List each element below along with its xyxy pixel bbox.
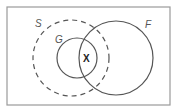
venn-diagram: S G F X bbox=[0, 0, 176, 111]
set-s-label: S bbox=[35, 18, 42, 29]
set-f-label: F bbox=[145, 19, 152, 30]
set-g-label: G bbox=[55, 34, 63, 45]
element-x-label: X bbox=[83, 53, 90, 64]
